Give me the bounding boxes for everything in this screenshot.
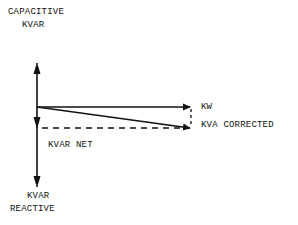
kw-label: KW: [201, 103, 212, 112]
kva-corrected-arrow: [37, 107, 190, 128]
capacitive-kvar-label: KVAR: [22, 21, 44, 30]
reactive-label: REACTIVE: [10, 205, 55, 214]
kvar-net-label: KVAR NET: [48, 141, 93, 150]
reactive-kvar-label: KVAR: [27, 192, 49, 201]
capacitive-label: CAPACITIVE: [8, 8, 64, 17]
kvar-net-arrowhead: [34, 117, 41, 129]
kva-corrected-label: KVA CORRECTED: [201, 121, 274, 130]
